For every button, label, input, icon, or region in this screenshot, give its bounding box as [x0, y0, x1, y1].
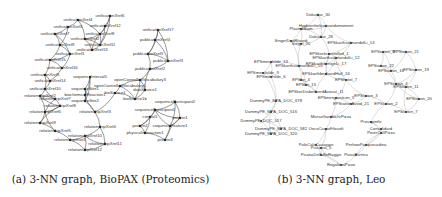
- graph-node: bioSource1: [104, 90, 126, 95]
- node-label: publicationXref5: [133, 51, 164, 56]
- caption-a: (a) 3-NN graph, BioPAX (Proteomics): [0, 173, 221, 185]
- node-label: unificationXref12: [89, 23, 121, 28]
- node-label: Plasmodium: [289, 26, 313, 31]
- graph-node: EPSmergrontcon_5: [318, 95, 355, 100]
- node-label: EPSkarthsalmandolLi_14: [327, 40, 375, 45]
- node-label: Dokudae_30: [306, 12, 330, 17]
- graph-node: relationshipXref6: [29, 109, 61, 114]
- graph-node: bioSource1b: [123, 96, 147, 101]
- node-label: MorsoGandochrPizza: [311, 114, 352, 119]
- graph-node: relationshipXref4: [84, 124, 116, 129]
- graph-node: control1: [143, 114, 159, 119]
- graph-node: EPStation_3: [354, 93, 378, 98]
- node-label: unificationXref6: [96, 13, 126, 18]
- graph-node: EPStation_19: [403, 67, 429, 72]
- graph-node: protein1: [172, 115, 188, 120]
- graph-node: protein3: [157, 137, 173, 142]
- graph-node: relationshipXref5: [39, 128, 71, 133]
- node-label: unificationXref16: [46, 65, 78, 70]
- node-label: Provapintle: [361, 119, 383, 124]
- graph-node: openControlledVocabulary3: [114, 77, 166, 82]
- node-label: protein3: [157, 137, 173, 142]
- graph-node: EPStation_16: [378, 68, 404, 73]
- node-label: relationshipXref9: [24, 120, 56, 125]
- graph-node: unificationXref15: [34, 57, 66, 62]
- graph-node: DummyPE_MPA_DOC_678: [250, 98, 303, 103]
- graph-node: EPStation_21: [393, 49, 419, 54]
- graph-node: Siegel_20: [292, 41, 311, 46]
- knn-graph-biopax: unificationXref6unificationXref4unificat…: [0, 0, 221, 170]
- node-label: relationshipXref12: [68, 147, 102, 152]
- node-label: EPStation_3: [354, 93, 378, 98]
- graph-node: EPSbe_15: [296, 82, 317, 87]
- node-label: unificationXref3: [54, 24, 84, 29]
- node-label: control1: [143, 114, 159, 119]
- node-label: EPStation_21: [393, 49, 419, 54]
- node-label: relationshipXref4: [84, 124, 116, 129]
- graph-node: Pissaina_5: [311, 145, 332, 150]
- node-label: protein2: [132, 123, 148, 128]
- node-label: EPStation_19: [403, 67, 429, 72]
- node-label: EPSkarthsalmandolLi_12: [312, 55, 360, 60]
- node-label: EPStation_20: [406, 96, 432, 101]
- node-label: sequenceFeature1: [153, 123, 189, 128]
- node-label: Pissaina_5: [311, 145, 332, 150]
- graph-node: unificationXref1: [56, 51, 86, 56]
- node-label: EPShotel_7: [335, 77, 358, 82]
- graph-node: PisanaDellaBeRaggie: [301, 152, 342, 157]
- node-label: openControlledVocabulary3: [114, 77, 166, 82]
- node-label: unificationXref15: [34, 57, 66, 62]
- node-label: DummyPE_MPA_DOC_516: [245, 109, 298, 114]
- graph-node: EPSkarthbedoordHalf_16: [302, 71, 350, 76]
- graph-node: Provapintle: [361, 119, 383, 124]
- node-label: PisanaDellaBeRaggie: [301, 152, 342, 157]
- graph-node: unificationXref17: [142, 27, 174, 32]
- node-label: biochemicalReaction1: [65, 92, 107, 97]
- node-label: relationshipXref7: [39, 96, 71, 101]
- knn-graph-leo: Dokudae_30HypbrenhelicetnandomomentPlasm…: [221, 0, 442, 170]
- node-label: bioSource1b: [123, 96, 147, 101]
- node-label: DummyPE_DOC_517: [241, 118, 283, 123]
- graph-node: relationshipXref12: [68, 147, 102, 152]
- graph-node: unificationXref12: [89, 23, 121, 28]
- graph-node: EPSkerDisbedeerdAvocat_11: [288, 89, 344, 94]
- panel-b-leo-graph: Dokudae_30HypbrenhelicetnandomomentPlasm…: [221, 0, 442, 197]
- graph-node: MorsoGandochrPizza: [311, 114, 352, 119]
- graph-node: unificationXref4: [64, 17, 94, 22]
- node-label: EPSmergrontcon_5: [318, 95, 355, 100]
- node-label: EPStation_7: [394, 109, 418, 114]
- node-label: unificationXref2: [71, 36, 101, 41]
- node-label: unificationXref17: [142, 27, 174, 32]
- node-label: dataSource1: [133, 87, 157, 92]
- graph-node: publicationXref2: [135, 66, 166, 71]
- graph-node: relationshipXref8: [44, 103, 76, 108]
- node-label: unificationXref9: [46, 42, 76, 47]
- node-label: publicationXref4: [140, 37, 171, 42]
- node-label: Siegel_20: [292, 41, 311, 46]
- graph-node: biochemicalReaction1: [65, 92, 107, 97]
- node-label: EPStationAvoid_21: [333, 101, 370, 106]
- node-label: publicationXref2: [135, 66, 166, 71]
- graph-node: Dokudae_28: [309, 34, 333, 39]
- nodes: unificationXref6unificationXref4unificat…: [24, 13, 196, 152]
- graph-node: EPSkarthbenignLi_17: [306, 61, 347, 66]
- node-label: EPSkarthbenignLi_17: [306, 61, 347, 66]
- node-label: sequenceInterval1: [73, 74, 108, 79]
- graph-node: unificationXref7: [41, 31, 71, 36]
- node-label: PerhowPasquesadina: [346, 142, 387, 147]
- graph-node: unificationXref5: [31, 72, 61, 77]
- graph-node: relationshipXref1: [54, 137, 86, 142]
- node-label: unificationXref10: [29, 86, 61, 91]
- node-label: RegalanaPizza: [327, 162, 356, 167]
- node-label: unificationXref14: [34, 78, 66, 83]
- node-label: Dokudae_28: [309, 34, 333, 39]
- graph-node: unificationXref3: [54, 24, 84, 29]
- node-label: EPSkerDisbedeerdAvocat_11: [288, 89, 344, 94]
- node-label: OncoCarpoFilosoft: [309, 126, 345, 131]
- node-label: relationshipXref8: [44, 103, 76, 108]
- node-label: EPSkarthbedoordHalf_16: [302, 71, 350, 76]
- graph-node: unificationXref14: [34, 78, 66, 83]
- node-label: physicalInteraction1: [126, 130, 164, 135]
- graph-node: publicationXref4: [140, 37, 171, 42]
- node-label: sequenceParticipant2: [155, 99, 196, 104]
